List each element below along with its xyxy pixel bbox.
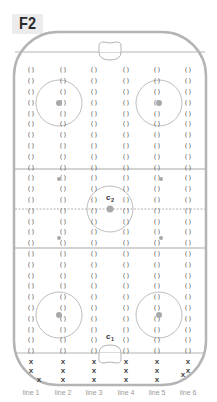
line-label: line 4	[118, 389, 135, 396]
player-position-marker: ()	[153, 88, 161, 96]
player-position-marker: ()	[122, 293, 130, 301]
player-position-marker: ()	[122, 239, 130, 247]
bottom-goal-net	[99, 353, 121, 363]
player-position-marker: ()	[122, 164, 130, 172]
player-position-marker: ()	[90, 153, 98, 161]
faceoff-dot	[159, 236, 163, 240]
bench-player-x: x	[92, 357, 97, 366]
player-position-marker: ()	[27, 336, 35, 344]
player-position-marker: ()	[59, 185, 67, 193]
player-position-marker: ()	[122, 304, 130, 312]
player-position-marker: ()	[153, 336, 161, 344]
top-goal-crease	[99, 52, 121, 60]
player-position-marker: ()	[90, 272, 98, 280]
player-position-marker: ()	[184, 88, 192, 96]
player-position-marker: ()	[59, 326, 67, 334]
player-position-marker: ()	[122, 315, 130, 323]
player-position-marker: ()	[27, 164, 35, 172]
player-position-marker: ()	[59, 131, 67, 139]
player-position-marker: ()	[59, 239, 67, 247]
player-position-marker: ()	[122, 347, 130, 355]
player-position-marker: ()	[27, 77, 35, 85]
player-position-marker: ()	[122, 174, 130, 182]
player-position-marker: ()	[153, 347, 161, 355]
center-marker-subscript: 2	[111, 197, 114, 203]
player-position-marker: ()	[90, 66, 98, 74]
player-position-marker: ()	[59, 110, 67, 118]
player-position-marker: ()	[184, 131, 192, 139]
player-position-marker: ()	[184, 174, 192, 182]
player-position-marker: ()	[90, 250, 98, 258]
player-position-marker: ()	[59, 228, 67, 236]
player-position-marker: ()	[59, 293, 67, 301]
player-position-marker: ()	[122, 88, 130, 96]
player-position-marker: ()	[153, 239, 161, 247]
player-position-marker: ()	[184, 326, 192, 334]
player-position-marker: ()	[184, 185, 192, 193]
player-position-marker: ()	[122, 272, 130, 280]
line-label: line 2	[55, 389, 72, 396]
player-position-marker: ()	[27, 304, 35, 312]
faceoff-dot	[57, 236, 61, 240]
player-position-marker: ()	[153, 207, 161, 215]
bench-player-x: x	[92, 375, 97, 384]
player-position-marker: ()	[27, 110, 35, 118]
player-position-marker: ()	[59, 120, 67, 128]
player-position-marker: ()	[90, 164, 98, 172]
bench-player-x: x	[155, 366, 160, 375]
player-position-marker: ()	[59, 261, 67, 269]
player-position-marker: ()	[122, 153, 130, 161]
player-position-marker: ()	[59, 250, 67, 258]
player-position-marker: ()	[153, 304, 161, 312]
player-position-marker: ()	[184, 336, 192, 344]
line-label: line 5	[149, 389, 166, 396]
player-position-marker: ()	[122, 142, 130, 150]
bench-player-x: x	[186, 357, 191, 366]
faceoff-dot	[56, 312, 62, 318]
faceoff-dot	[159, 177, 163, 181]
player-position-marker: ()	[153, 110, 161, 118]
player-position-marker: ()	[27, 250, 35, 258]
player-position-marker: ()	[90, 196, 98, 204]
line-labels: line 1line 2line 3line 4line 5line 6	[23, 389, 197, 396]
player-position-marker: ()	[153, 66, 161, 74]
player-position-marker: ()	[27, 315, 35, 323]
player-position-marker: ()	[184, 272, 192, 280]
player-position-marker: ()	[90, 304, 98, 312]
player-position-marker: ()	[27, 88, 35, 96]
line-label: line 6	[180, 389, 197, 396]
line-label: line 3	[86, 389, 103, 396]
player-position-marker: ()	[27, 282, 35, 290]
player-position-marker: ()	[122, 99, 130, 107]
player-position-marker: ()	[27, 153, 35, 161]
hockey-rink-diagram: ()()()()()()()()()()()()()()()()()()()()…	[0, 0, 217, 402]
player-position-marker: ()	[27, 142, 35, 150]
player-position-marker: ()	[59, 336, 67, 344]
player-position-marker: ()	[153, 272, 161, 280]
player-position-marker: ()	[122, 120, 130, 128]
player-position-marker: ()	[184, 228, 192, 236]
bench-player-x: x	[29, 357, 34, 366]
player-position-marker: ()	[59, 164, 67, 172]
player-position-marker: ()	[90, 282, 98, 290]
faceoff-dot	[56, 100, 62, 106]
player-position-marker: ()	[90, 239, 98, 247]
player-position-marker: ()	[27, 99, 35, 107]
player-position-marker: ()	[90, 293, 98, 301]
player-position-marker: ()	[90, 207, 98, 215]
bench-player-x: x	[186, 366, 191, 375]
player-position-marker: ()	[153, 293, 161, 301]
player-position-marker: ()	[184, 282, 192, 290]
player-position-marker: ()	[27, 272, 35, 280]
player-position-marker: ()	[184, 99, 192, 107]
bench-player-x: x	[61, 357, 66, 366]
player-position-marker: ()	[184, 315, 192, 323]
faceoff-dot	[156, 100, 162, 106]
player-position-marker: ()	[153, 218, 161, 226]
player-position-marker: ()	[153, 228, 161, 236]
player-position-marker: ()	[184, 142, 192, 150]
bench-player-x: x	[155, 357, 160, 366]
player-position-marker: ()	[184, 261, 192, 269]
player-position-marker: ()	[184, 304, 192, 312]
player-position-marker: ()	[59, 272, 67, 280]
